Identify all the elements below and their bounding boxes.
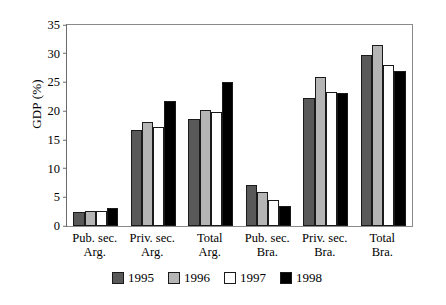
legend-swatch [168, 272, 180, 284]
x-axis-category-label: Pub. sec.Bra. [239, 231, 297, 259]
chart-legend: 1995199619971998 [112, 271, 322, 284]
y-axis-tick: 25 [48, 76, 68, 89]
bar-group [240, 25, 298, 226]
x-axis-category-label: TotalArg. [181, 231, 239, 259]
x-axis-label-line2: Bra. [296, 245, 354, 259]
legend-item: 1997 [224, 271, 266, 284]
bar [85, 211, 96, 226]
y-axis-tick: 10 [48, 162, 68, 175]
bar-group [355, 25, 413, 226]
y-axis-title: GDP (%) [29, 69, 45, 139]
bar-chart-figure: GDP (%) 35302520151050 Pub. sec.Arg.Priv… [0, 0, 446, 305]
bar [326, 92, 337, 226]
bar [394, 71, 405, 226]
bar [142, 122, 153, 226]
bar-group [125, 25, 183, 226]
bar [107, 208, 118, 226]
y-axis-tick-label: 20 [48, 105, 64, 118]
y-axis-tick: 15 [48, 134, 68, 147]
x-axis-category-label: Priv. sec.Arg. [124, 231, 182, 259]
bar [96, 211, 107, 227]
y-axis-tick-label: 5 [54, 191, 63, 204]
bar [153, 127, 164, 226]
bar [268, 200, 279, 226]
x-axis-label-line1: Total [369, 231, 395, 245]
y-axis-tick: 35 [48, 19, 68, 32]
bar [257, 192, 268, 226]
y-axis-tick-label: 30 [48, 47, 64, 60]
bar [164, 101, 175, 226]
bar [337, 93, 348, 226]
legend-label: 1996 [184, 271, 210, 284]
legend-label: 1997 [240, 271, 266, 284]
x-axis-label-line1: Pub. sec. [245, 231, 290, 245]
y-axis-tick-label: 0 [54, 220, 63, 233]
legend-item: 1996 [168, 271, 210, 284]
x-axis-label-line2: Arg. [66, 245, 124, 259]
legend-item: 1998 [280, 271, 322, 284]
bar [73, 212, 84, 226]
bar [303, 98, 314, 226]
x-axis-label-line2: Arg. [181, 245, 239, 259]
x-axis-category-label: TotalBra. [354, 231, 412, 259]
legend-label: 1995 [128, 271, 154, 284]
y-axis-tick: 30 [48, 47, 68, 60]
x-axis-label-line2: Bra. [354, 245, 412, 259]
bar [361, 55, 372, 226]
bar [131, 130, 142, 226]
y-axis-tick: 20 [48, 105, 68, 118]
bar [279, 206, 290, 226]
legend-item: 1995 [112, 271, 154, 284]
x-axis-label-line1: Priv. sec. [302, 231, 347, 245]
bar [222, 82, 233, 226]
y-axis-tick: 5 [54, 191, 67, 204]
bar-group [67, 25, 125, 226]
legend-swatch [112, 272, 124, 284]
x-axis-label-line2: Arg. [124, 245, 182, 259]
bar [246, 185, 257, 226]
bar [383, 65, 394, 226]
x-axis-category-label: Priv. sec.Bra. [296, 231, 354, 259]
y-axis-tick: 0 [54, 220, 67, 233]
legend-swatch [280, 272, 292, 284]
bar [200, 110, 211, 226]
bar-group [297, 25, 355, 226]
y-axis-tick-label: 25 [48, 76, 64, 89]
legend-label: 1998 [296, 271, 322, 284]
x-axis-category-label: Pub. sec.Arg. [66, 231, 124, 259]
x-axis-label-line1: Priv. sec. [130, 231, 175, 245]
x-axis-label-line2: Bra. [239, 245, 297, 259]
y-axis-tick-label: 10 [48, 162, 64, 175]
bar [315, 77, 326, 226]
bar [372, 45, 383, 226]
bar-series-container [67, 25, 412, 226]
y-axis-tick-label: 35 [48, 19, 64, 32]
bar [211, 112, 222, 226]
plot-area: 35302520151050 [66, 24, 413, 227]
y-axis-tick-label: 15 [48, 134, 64, 147]
legend-swatch [224, 272, 236, 284]
bar-group [182, 25, 240, 226]
x-axis-label-line1: Pub. sec. [72, 231, 117, 245]
bar [188, 119, 199, 226]
x-axis-label-line1: Total [197, 231, 223, 245]
